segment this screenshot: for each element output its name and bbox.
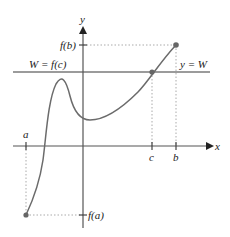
- point-b-fb: [173, 42, 179, 48]
- label-fa: f(a): [88, 209, 104, 222]
- label-fb: f(b): [60, 39, 76, 52]
- point-a-fa: [23, 212, 28, 217]
- x-axis-label: x: [214, 140, 220, 152]
- point-c-fc: [149, 69, 154, 74]
- label-y-equals-W: y = W: [179, 58, 208, 70]
- label-W-equals-fc: W = f(c): [29, 58, 67, 71]
- label-b: b: [173, 151, 179, 163]
- label-a: a: [23, 128, 29, 140]
- ivt-diagram: y x a c b f(b) f(a) W = f(c) y = W: [0, 0, 230, 237]
- label-c: c: [149, 151, 154, 163]
- y-axis-label: y: [79, 13, 85, 25]
